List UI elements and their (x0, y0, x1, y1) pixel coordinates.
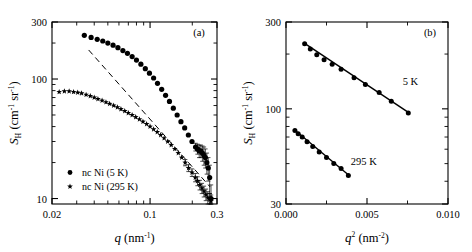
data-point (105, 40, 110, 45)
data-point (310, 144, 315, 149)
data-point (175, 112, 180, 117)
data-point (305, 139, 310, 144)
data-point (330, 62, 335, 67)
data-point (178, 119, 183, 124)
legend-label-5K: nc Ni (5 K) (82, 167, 128, 179)
data-point (95, 37, 100, 42)
data-point (339, 67, 344, 72)
panel-b-y-ticks: 30100300 (265, 17, 448, 210)
data-point (143, 66, 148, 71)
data-point (317, 149, 322, 154)
data-point (346, 173, 351, 178)
data-point (159, 87, 164, 92)
panel-a-y-axis-title: SH (cm-1 sr-1) (6, 81, 23, 144)
panel-a-canvas: 101003000.020.10.3nc Ni (5 K)nc Ni (295 … (0, 0, 236, 252)
data-point (151, 126, 157, 131)
data-point (66, 88, 72, 93)
panel-b-canvas: 301003000.0000.0050.0105 K295 K(b)q2 (nm… (236, 0, 472, 252)
panel-b-x-ticks: 0.0000.0050.010 (274, 22, 460, 220)
panel-a-y-ticklabel: 300 (31, 17, 47, 28)
panel-a-x-ticklabel: 0.3 (210, 209, 223, 220)
panel-b-annotation-295K: 295 K (351, 156, 377, 167)
data-point (130, 54, 135, 59)
data-point (165, 139, 171, 144)
data-point (134, 57, 139, 62)
data-point (89, 35, 94, 40)
panel-a-y-ticklabel: 10 (37, 194, 48, 205)
data-point (300, 135, 305, 140)
data-point (296, 131, 301, 136)
data-point (182, 125, 187, 130)
data-point (110, 43, 115, 48)
panel-a-x-ticklabel: 0.1 (143, 209, 156, 220)
panel-a-x-ticklabel: 0.02 (43, 209, 61, 220)
data-point (138, 62, 143, 67)
data-point (120, 48, 125, 53)
data-point (324, 155, 329, 160)
data-point (167, 99, 172, 104)
data-point (204, 160, 209, 165)
data-point (172, 146, 178, 151)
data-point (147, 71, 152, 76)
data-point (100, 38, 105, 43)
data-point (151, 75, 156, 80)
panel-a-legend: nc Ni (5 K)nc Ni (295 K) (67, 167, 138, 193)
panel-b-label: (b) (424, 27, 437, 39)
figure-root: 101003000.020.10.3nc Ni (5 K)nc Ni (295 … (0, 0, 472, 252)
data-point (115, 45, 120, 50)
panel-b-y-axis-title: SH (cm-1 sr-1) (240, 81, 257, 144)
data-point (155, 81, 160, 86)
data-point (406, 110, 411, 115)
legend-label-295K: nc Ni (295 K) (82, 181, 138, 193)
data-point (171, 106, 176, 111)
panel-b-y-ticklabel: 100 (265, 104, 281, 115)
panel-b-x-axis-title: q2 (nm-2) (345, 230, 389, 245)
panel-a-x-axis-title: q (nm-1) (114, 230, 154, 245)
legend-marker-circle (68, 170, 73, 175)
data-point (314, 52, 319, 57)
data-point (56, 89, 62, 94)
data-point (154, 129, 160, 134)
data-point (363, 82, 368, 87)
data-point (147, 124, 153, 129)
data-point (322, 57, 327, 62)
data-point (186, 132, 191, 137)
data-point (207, 175, 212, 180)
data-point (308, 47, 313, 52)
panel-b-y-ticklabel: 300 (265, 17, 281, 28)
data-point (302, 41, 307, 46)
data-point (161, 135, 167, 140)
panel-b-x-ticklabel: 0.000 (274, 209, 298, 220)
panel-a-series-5K (82, 33, 214, 204)
data-point (389, 99, 394, 104)
data-point (352, 75, 357, 80)
data-point (163, 93, 168, 98)
data-point (79, 90, 85, 95)
data-point (339, 166, 344, 171)
data-point (82, 33, 87, 38)
data-point (168, 142, 174, 147)
panel-b-x-ticklabel: 0.005 (355, 209, 379, 220)
panel-b: 301003000.0000.0050.0105 K295 K(b)q2 (nm… (236, 0, 472, 252)
panel-b-x-ticklabel: 0.010 (436, 209, 460, 220)
panel-b-annotation-5K: 5 K (403, 76, 419, 87)
data-point (125, 51, 130, 56)
data-point (206, 165, 211, 170)
legend-marker-star (67, 184, 73, 189)
panel-a: 101003000.020.10.3nc Ni (5 K)nc Ni (295 … (0, 0, 236, 252)
panel-a-y-ticklabel: 100 (31, 74, 47, 85)
data-point (331, 161, 336, 166)
data-point (377, 90, 382, 95)
panel-a-label: (a) (193, 27, 205, 39)
data-point (62, 88, 68, 93)
